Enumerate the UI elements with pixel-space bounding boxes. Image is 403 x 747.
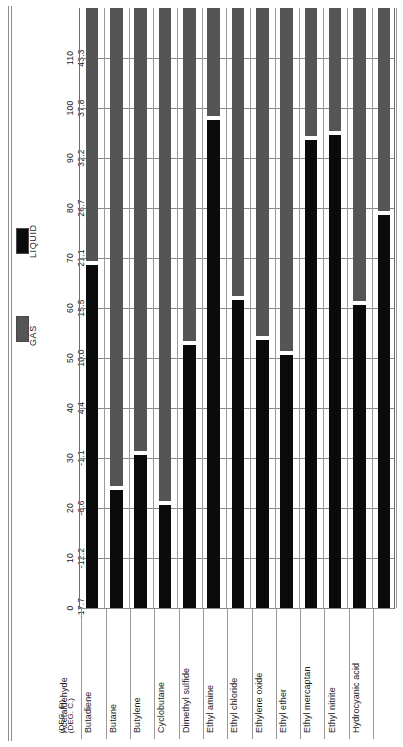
phase-change-marker xyxy=(255,336,270,339)
bar-segment-liquid xyxy=(207,120,220,608)
category-label-text: Butadiene xyxy=(83,692,93,733)
category-label-ethyl-nitrite: Ethyl nitrite xyxy=(324,609,348,739)
category-label-cyclobutane: Cyclobutane xyxy=(154,609,178,739)
bar-segment-liquid xyxy=(353,305,366,608)
category-separator xyxy=(153,8,154,608)
category-separator-lower xyxy=(373,609,374,739)
category-label-text: Ethyl nitrite xyxy=(327,687,337,733)
category-label-text: Ethylene oxide xyxy=(254,673,264,733)
phase-change-marker xyxy=(133,451,148,454)
axis-tick: 9032.2 xyxy=(57,158,79,159)
bar-butane[interactable] xyxy=(134,8,147,608)
category-separator xyxy=(323,8,324,608)
tick-label-fahrenheit: 10 xyxy=(65,553,75,563)
phase-change-marker xyxy=(85,261,100,264)
category-label-dimethyl-sulfide: Dimethyl sulfide xyxy=(179,609,203,739)
bar-segment-gas xyxy=(329,8,342,131)
category-label-text: Ethyl chloride xyxy=(229,678,239,733)
tick-label-fahrenheit: 90 xyxy=(65,153,75,163)
tick-label-fahrenheit: 40 xyxy=(65,403,75,413)
bar-acetaldehyde[interactable] xyxy=(86,8,99,608)
category-label-text: Hydrocyanic acid xyxy=(351,663,361,733)
category-separator xyxy=(275,8,276,608)
axis-tick: 30-1.1 xyxy=(57,458,79,459)
bar-segment-gas xyxy=(353,8,366,301)
category-separator xyxy=(104,8,105,608)
bar-ethyl-nitrite[interactable] xyxy=(353,8,366,608)
bar-ethyl-mercaptan[interactable] xyxy=(329,8,342,608)
bar-segment-gas xyxy=(207,8,220,116)
tick-label-fahrenheit: 110 xyxy=(65,51,75,65)
bar-butadiene[interactable] xyxy=(110,8,123,608)
bar-segment-liquid xyxy=(256,340,269,608)
tick-label-fahrenheit: 100 xyxy=(65,101,75,116)
category-label-text: Acetaldehyde xyxy=(59,677,69,733)
chart-legend: LIQUIDGAS xyxy=(14,228,48,408)
bar-ethyl-chloride[interactable] xyxy=(256,8,269,608)
category-label-butadiene: Butadiene xyxy=(81,609,105,739)
bar-ethyl-amine[interactable] xyxy=(232,8,245,608)
axis-tick: 8026.7 xyxy=(57,208,79,209)
bar-segment-gas xyxy=(183,8,196,341)
phase-change-marker xyxy=(328,131,343,134)
category-label-text: Ethyl ether xyxy=(278,689,288,733)
bar-segment-gas xyxy=(134,8,147,451)
category-separator xyxy=(372,8,373,608)
bar-segment-liquid xyxy=(183,345,196,608)
category-label-text: Dimethyl sulfide xyxy=(181,668,191,733)
tick-label-fahrenheit: 60 xyxy=(65,303,75,313)
bar-segment-gas xyxy=(86,8,99,261)
category-label-ethyl-mercaptan: Ethyl mercaptan xyxy=(300,609,324,739)
category-label-text: Ethyl mercaptan xyxy=(302,666,312,733)
phase-change-marker xyxy=(377,211,392,214)
tick-label-fahrenheit: 80 xyxy=(65,203,75,213)
frame-rule-inner xyxy=(11,6,12,741)
bar-ethyl-ether[interactable] xyxy=(305,8,318,608)
bar-segment-gas xyxy=(378,8,391,211)
category-separator xyxy=(396,8,397,608)
bar-segment-liquid xyxy=(305,140,318,608)
bar-dimethyl-sulfide[interactable] xyxy=(207,8,220,608)
category-separator xyxy=(250,8,251,608)
phase-change-marker xyxy=(231,296,246,299)
phase-change-marker xyxy=(109,486,124,489)
axis-tick: 5010.0 xyxy=(57,358,79,359)
legend-label-gas: GAS xyxy=(28,286,38,346)
legend-entry-gas: GAS xyxy=(14,316,48,402)
category-separator xyxy=(299,8,300,608)
axis-tick: 20-6.6 xyxy=(57,508,79,509)
category-separator xyxy=(347,8,348,608)
axis-tick: 6015.5 xyxy=(57,308,79,309)
bar-segment-gas xyxy=(159,8,172,501)
bar-segment-liquid xyxy=(134,455,147,608)
category-separator xyxy=(226,8,227,608)
axis-tick: 404.4 xyxy=(57,408,79,409)
category-separator xyxy=(129,8,130,608)
tick-label-fahrenheit: 20 xyxy=(65,503,75,513)
category-label-ethylene-oxide: Ethylene oxide xyxy=(252,609,276,739)
category-label-ethyl-amine: Ethyl amine xyxy=(203,609,227,739)
legend-label-liquid: LIQUID xyxy=(28,198,38,258)
bar-ethylene-oxide[interactable] xyxy=(280,8,293,608)
category-label-text: Cyclobutane xyxy=(156,682,166,733)
category-labels: (DEG. F.) (DEG. C.) AcetaldehydeButadien… xyxy=(57,609,395,739)
bar-segment-gas xyxy=(110,8,123,486)
tick-label-fahrenheit: 70 xyxy=(65,253,75,263)
bar-segment-gas xyxy=(305,8,318,136)
axis-tick: 11043.3 xyxy=(57,58,79,59)
bar-butylene[interactable] xyxy=(159,8,172,608)
bar-segment-liquid xyxy=(86,265,99,608)
category-separator xyxy=(202,8,203,608)
bar-segment-liquid xyxy=(159,505,172,608)
category-label-butane: Butane xyxy=(106,609,130,739)
category-label-butylene: Butylene xyxy=(130,609,154,739)
bar-segment-liquid xyxy=(329,135,342,608)
category-label-ethyl-ether: Ethyl ether xyxy=(276,609,300,739)
bar-cyclobutane[interactable] xyxy=(183,8,196,608)
axis-tick: 10037.8 xyxy=(57,108,79,109)
bar-hydrocyanic-acid[interactable] xyxy=(378,8,391,608)
bar-segment-liquid xyxy=(378,215,391,608)
bar-segment-gas xyxy=(280,8,293,351)
category-label-text: Butylene xyxy=(132,697,142,733)
phase-change-marker xyxy=(206,116,221,119)
